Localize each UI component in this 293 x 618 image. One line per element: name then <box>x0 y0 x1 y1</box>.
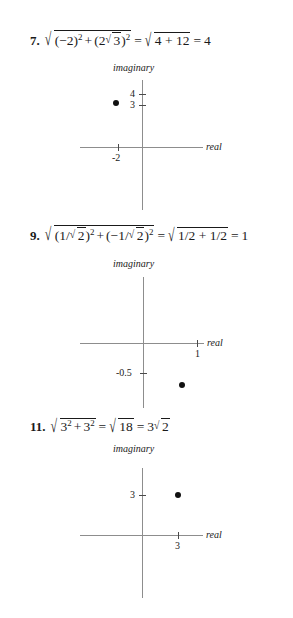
problem-11-result-radical: √18 <box>109 418 134 434</box>
problem-11-formula: 11.√32+32=√18=3√2 <box>30 418 170 434</box>
problem-7-outer-radical: √(−2)2+(2√3)2 <box>45 30 131 48</box>
problem-11-result-radicand: 18 <box>119 419 133 434</box>
problem-7-xtick-neg2 <box>118 144 119 151</box>
problem-7-equals-1: = <box>131 33 145 48</box>
problem-7-term2-radicand: 3 <box>113 33 120 48</box>
problem-7-real-axis-label: real <box>206 141 222 152</box>
problem-9-ytick-label-neg05: -0.5 <box>116 367 132 378</box>
problem-9-term2-exponent: 2 <box>149 227 153 237</box>
problem-11-xtick-3 <box>178 532 179 539</box>
radical-icon: √ <box>70 229 76 241</box>
radical-icon: √ <box>45 30 52 48</box>
problem-9-number: 9. <box>30 228 40 243</box>
problem-9-term1-radicand: 2 <box>78 228 85 243</box>
problem-7-xtick-label-neg2: -2 <box>112 152 120 163</box>
radical-icon: √ <box>45 225 52 243</box>
problem-9-data-point <box>179 382 185 388</box>
problem-9-xtick-1 <box>197 340 198 347</box>
problem-9-ytick-neg05 <box>140 373 147 374</box>
problem-7-final-value: 4 <box>204 33 211 48</box>
radical-icon: √ <box>51 417 58 435</box>
problem-7-plus: + <box>83 33 95 48</box>
problem-9-result-radical: √1/2 + 1/2 <box>168 227 228 243</box>
problem-11-equals-1: = <box>96 419 110 434</box>
problem-7-ytick-label-3: 3 <box>130 99 135 110</box>
problem-7-term1-base: (−2) <box>55 33 78 48</box>
radical-icon: √ <box>168 226 175 244</box>
problem-7-term2-open: (2 <box>94 33 105 48</box>
problem-7-term1-exponent: 2 <box>78 32 82 42</box>
problem-7-ytick-label-4: 4 <box>130 88 135 99</box>
problem-11-final-radicand: 2 <box>162 419 169 434</box>
problem-11-number: 11. <box>30 419 46 434</box>
problem-11-outer-radical: √32+32 <box>51 418 96 434</box>
problem-9-equals-1: = <box>154 228 168 243</box>
problem-9-real-axis-label: real <box>207 337 223 348</box>
problem-11-final-radical: √2 <box>154 418 170 434</box>
radical-icon: √ <box>129 229 135 241</box>
problem-7-ytick-3 <box>139 105 146 106</box>
problem-7-equals-2: = <box>190 33 204 48</box>
problem-7-term2-exponent: 2 <box>126 32 130 42</box>
problem-9-real-axis <box>80 343 204 344</box>
problem-11-final-coefficient: 3 <box>147 419 154 434</box>
problem-7-inner-radical: √3 <box>105 32 121 48</box>
worked-solutions-page: { "page": { "title": "Complex number mod… <box>0 0 293 618</box>
radical-icon: √ <box>154 420 160 432</box>
radical-icon: √ <box>109 417 116 435</box>
radical-icon: √ <box>145 31 152 49</box>
problem-7-imaginary-axis <box>142 80 143 210</box>
problem-9-formula: 9.√(1/√2)2+(−1/√2)2=√1/2 + 1/2=1 <box>30 225 248 243</box>
problem-9-term2-open: (−1/ <box>106 228 129 243</box>
problem-11-plus: + <box>72 419 84 434</box>
problem-11-data-point <box>175 492 181 498</box>
problem-9-imaginary-axis-label: imaginary <box>113 258 154 269</box>
problem-7-formula: 7.√(−2)2+(2√3)2=√4 + 12=4 <box>30 30 211 48</box>
problem-7-real-axis <box>80 147 203 148</box>
problem-11-ytick-3 <box>139 495 146 496</box>
problem-11-ytick-label-3: 3 <box>130 489 135 500</box>
problem-7-ytick-4 <box>139 94 146 95</box>
problem-9-equals-2: = <box>228 228 242 243</box>
problem-7-number: 7. <box>30 33 40 48</box>
problem-11-imaginary-axis <box>142 468 143 598</box>
problem-11-equals-2: = <box>134 419 148 434</box>
problem-7-data-point <box>113 100 119 106</box>
problem-9-term2-radicand: 2 <box>137 228 144 243</box>
problem-9-term1-radical: √2 <box>70 227 86 243</box>
problem-9-term1-open: (1/ <box>55 228 70 243</box>
problem-7-result-radical: √4 + 12 <box>145 32 191 48</box>
problem-9-xtick-label-1: 1 <box>195 348 200 359</box>
problem-9-outer-radical: √(1/√2)2+(−1/√2)2 <box>45 225 155 243</box>
problem-11-real-axis-label: real <box>206 529 222 540</box>
problem-7-imaginary-axis-label: imaginary <box>113 62 154 73</box>
problem-11-xtick-label-3: 3 <box>175 540 180 551</box>
problem-9-term2-radical: √2 <box>129 227 145 243</box>
problem-11-term2-exponent: 2 <box>90 418 94 428</box>
problem-9-plus: + <box>94 228 106 243</box>
problem-11-imaginary-axis-label: imaginary <box>113 443 154 454</box>
problem-7-result-radicand: 4 + 12 <box>155 33 190 48</box>
problem-9-result-radicand: 1/2 + 1/2 <box>178 228 227 243</box>
radical-icon: √ <box>105 34 111 46</box>
problem-11-real-axis <box>80 535 203 536</box>
problem-9-final-value: 1 <box>242 228 249 243</box>
